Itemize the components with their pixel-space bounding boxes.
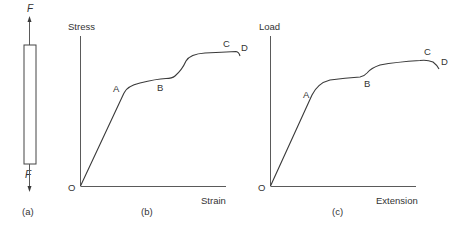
origin-label: O [68, 182, 75, 193]
y-axis-label-load: Load [259, 21, 280, 32]
force-bottom-label: F [25, 169, 32, 180]
point-b-label: B [364, 78, 370, 89]
stress-strain-figure: F F (a) Stress O Strain A B C D (b) Load… [0, 0, 471, 233]
point-a-label: A [113, 83, 120, 94]
point-d-label: D [241, 42, 248, 53]
specimen-bar [24, 45, 36, 164]
load-extension-curve [271, 60, 440, 186]
x-axis-label-strain: Strain [201, 195, 226, 206]
point-c-label: C [223, 38, 230, 49]
caption-a: (a) [22, 206, 34, 217]
x-axis-label-extension: Extension [376, 195, 418, 206]
point-a-label: A [303, 89, 310, 100]
point-d-label: D [441, 56, 448, 67]
panel-b-stress-strain: Stress O Strain A B C D (b) [68, 21, 248, 217]
stress-strain-curve [81, 52, 241, 187]
point-c-label: C [424, 46, 431, 57]
arrow-up-icon [28, 16, 32, 22]
origin-label: O [258, 182, 265, 193]
panel-a-specimen: F F (a) [22, 3, 36, 217]
caption-b: (b) [141, 206, 153, 217]
point-b-label: B [157, 82, 163, 93]
caption-c: (c) [332, 206, 343, 217]
force-top-label: F [27, 3, 34, 14]
arrow-down-icon [28, 186, 32, 192]
y-axis-label-stress: Stress [68, 21, 95, 32]
panel-c-load-extension: Load O Extension A B C D (c) [258, 21, 448, 217]
